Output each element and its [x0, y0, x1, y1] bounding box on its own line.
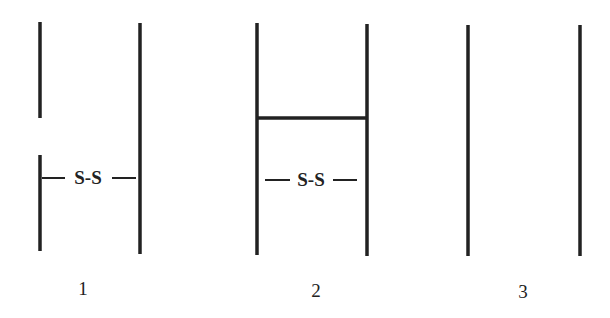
panel-2-bond-label: S-S: [297, 169, 324, 191]
panel-1-number: 1: [78, 278, 88, 300]
panel-3-number: 3: [518, 281, 528, 303]
panel-1-bond-label: S-S: [74, 167, 101, 189]
panel-2-lines: [257, 23, 367, 256]
diagram-canvas: [0, 0, 610, 318]
panel-3-lines: [468, 25, 580, 256]
panel-1-lines: [40, 22, 140, 254]
panel-2-number: 2: [311, 280, 321, 302]
